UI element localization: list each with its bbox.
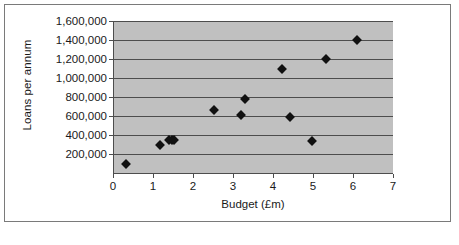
y-axis-title: Loans per annum <box>21 15 33 155</box>
data-point <box>236 110 246 120</box>
x-axis-title: Budget (£m) <box>113 198 393 210</box>
x-axis-tick-label: 2 <box>178 180 208 192</box>
x-axis-tick <box>273 174 274 178</box>
gridline <box>114 40 393 41</box>
y-axis-tick <box>109 154 113 155</box>
plot-area <box>113 21 393 173</box>
x-axis-tick-label: 3 <box>218 180 248 192</box>
y-axis-tick <box>109 59 113 60</box>
y-axis-tick-label: 1,400,000 <box>41 34 107 46</box>
gridline <box>114 78 393 79</box>
y-axis-tick <box>109 78 113 79</box>
data-point <box>285 112 295 122</box>
x-axis-tick <box>233 174 234 178</box>
data-point <box>277 64 287 74</box>
x-axis-tick-label: 6 <box>338 180 368 192</box>
y-axis-tick <box>109 135 113 136</box>
y-axis-tick <box>109 97 113 98</box>
x-axis-tick <box>113 174 114 178</box>
x-axis-tick-label: 4 <box>258 180 288 192</box>
x-axis-tick <box>153 174 154 178</box>
y-axis-tick-label: 800,000 <box>41 91 107 103</box>
x-axis-tick <box>313 174 314 178</box>
data-point <box>240 94 250 104</box>
y-axis-tick-label: 1,600,000 <box>41 15 107 27</box>
y-axis-line <box>113 21 114 174</box>
data-point <box>155 140 165 150</box>
x-axis-tick <box>193 174 194 178</box>
y-axis-tick-label: 1,200,000 <box>41 53 107 65</box>
y-axis-tick <box>109 21 113 22</box>
x-axis-tick-label: 0 <box>98 180 128 192</box>
data-point <box>321 55 331 65</box>
y-axis-tick-label: 400,000 <box>41 129 107 141</box>
y-axis-tick-label: 1,000,000 <box>41 72 107 84</box>
x-axis-tick-label: 5 <box>298 180 328 192</box>
y-axis-tick-label: 600,000 <box>41 110 107 122</box>
gridline <box>114 116 393 117</box>
y-axis-tick <box>109 116 113 117</box>
x-axis-tick-label: 7 <box>378 180 408 192</box>
y-axis-tick <box>109 40 113 41</box>
chart-frame: Loans per annum 200,000400,000600,000800… <box>4 4 451 222</box>
data-point <box>352 35 362 45</box>
gridline <box>114 21 393 22</box>
x-axis-tick-label: 1 <box>138 180 168 192</box>
data-point <box>209 105 219 115</box>
data-point <box>307 136 317 146</box>
x-axis-line <box>113 173 393 174</box>
y-axis-tick-label: 200,000 <box>41 148 107 160</box>
x-axis-tick <box>393 174 394 178</box>
gridline <box>114 97 393 98</box>
gridline <box>114 154 393 155</box>
x-axis-tick <box>353 174 354 178</box>
gridline <box>114 59 393 60</box>
data-point <box>121 159 131 169</box>
gridline <box>114 135 393 136</box>
